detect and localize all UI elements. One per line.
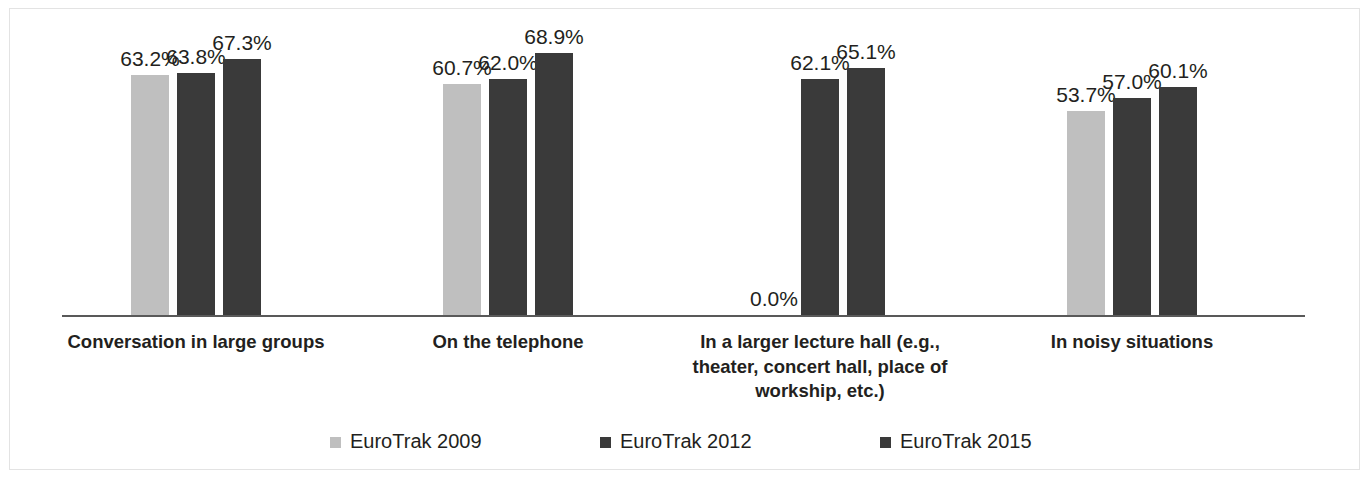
bar-slot: 60.7% [443, 0, 481, 315]
bar-slot: 65.1% [847, 0, 885, 315]
category-label: In a larger lecture hall (e.g., theater,… [664, 330, 976, 404]
bar-slot: 63.8% [177, 0, 215, 315]
legend-label: EuroTrak 2009 [350, 430, 482, 453]
bar-slot: 62.1% [801, 0, 839, 315]
bar[interactable] [1067, 111, 1105, 315]
bar[interactable] [223, 59, 261, 315]
bar[interactable] [1113, 98, 1151, 315]
bar-slot: 62.0% [489, 0, 527, 315]
legend-swatch-icon [880, 437, 891, 448]
bar-chart-plot-area: 63.2%63.8%67.3%60.7%62.0%68.9%0.0%62.1%6… [0, 0, 1371, 480]
bar[interactable] [847, 68, 885, 315]
bar-value-label: 62.0% [478, 52, 538, 73]
bar-slot: 67.3% [223, 0, 261, 315]
bar[interactable] [131, 75, 169, 315]
bar-slot: 63.2% [131, 0, 169, 315]
chart-legend: EuroTrak 2009EuroTrak 2012EuroTrak 2015 [0, 430, 1371, 460]
bar-slot: 57.0% [1113, 0, 1151, 315]
bar[interactable] [535, 53, 573, 315]
category-label: In noisy situations [976, 330, 1288, 355]
legend-item[interactable]: EuroTrak 2015 [880, 430, 1032, 453]
bar-slot: 60.1% [1159, 0, 1197, 315]
legend-label: EuroTrak 2012 [620, 430, 752, 453]
legend-label: EuroTrak 2015 [900, 430, 1032, 453]
bar[interactable] [1159, 87, 1197, 315]
bar-value-label: 67.3% [212, 32, 272, 53]
legend-item[interactable]: EuroTrak 2012 [600, 430, 752, 453]
legend-swatch-icon [330, 437, 341, 448]
bar[interactable] [177, 73, 215, 315]
x-axis-line [62, 315, 1305, 317]
bar-value-label: 0.0% [750, 288, 798, 309]
category-label: Conversation in large groups [40, 330, 352, 355]
bar[interactable] [801, 79, 839, 315]
bar-slot: 0.0% [755, 0, 793, 315]
legend-item[interactable]: EuroTrak 2009 [330, 430, 482, 453]
bar-value-label: 68.9% [524, 26, 584, 47]
legend-swatch-icon [600, 437, 611, 448]
bar-slot: 53.7% [1067, 0, 1105, 315]
bar-value-label: 65.1% [836, 41, 896, 62]
bar-slot: 68.9% [535, 0, 573, 315]
bar[interactable] [443, 84, 481, 315]
category-label: On the telephone [352, 330, 664, 355]
bar[interactable] [489, 79, 527, 315]
bar-value-label: 60.1% [1148, 60, 1208, 81]
